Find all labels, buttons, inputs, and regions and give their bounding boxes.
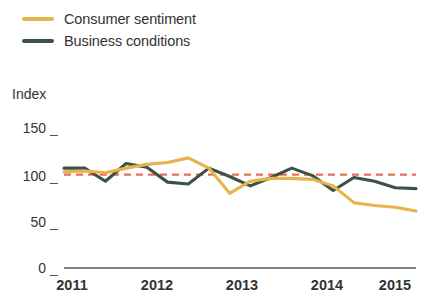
chart-figure: Consumer sentiment Business conditions I…	[0, 0, 421, 300]
series-line-business-conditions	[64, 158, 416, 211]
plot-area	[0, 0, 421, 300]
